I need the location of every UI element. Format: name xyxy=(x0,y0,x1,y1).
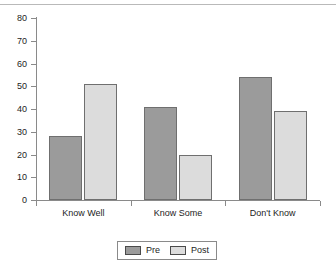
legend-entry-post: Post xyxy=(170,246,209,255)
x-axis-category-label: Don't Know xyxy=(225,208,320,219)
y-axis-tick-label: 30 xyxy=(0,128,27,137)
x-axis-tick xyxy=(225,201,226,206)
x-axis-tick xyxy=(320,201,321,206)
y-axis-tick xyxy=(31,155,36,156)
y-axis-tick-label: 70 xyxy=(0,37,27,46)
y-axis-tick-label: 20 xyxy=(0,151,27,160)
bar-pre-1 xyxy=(144,107,177,200)
bar-chart-figure: 01020304050607080Know WellKnow SomeDon't… xyxy=(0,0,336,271)
bar-post-0 xyxy=(84,84,117,200)
y-axis-tick-label: 10 xyxy=(0,173,27,182)
y-axis-tick xyxy=(31,177,36,178)
plot-area: 01020304050607080Know WellKnow SomeDon't… xyxy=(0,0,336,271)
y-axis-tick xyxy=(31,18,36,19)
legend-label-pre: Pre xyxy=(146,246,160,255)
x-axis-tick xyxy=(36,201,37,206)
y-axis-tick-label: 0 xyxy=(0,196,27,205)
legend-swatch-post xyxy=(170,246,186,255)
bar-post-1 xyxy=(179,155,212,201)
bar-post-2 xyxy=(274,111,307,200)
bar-pre-2 xyxy=(239,77,272,200)
legend-entry-pre: Pre xyxy=(125,246,160,255)
y-axis-tick-label: 60 xyxy=(0,60,27,69)
chart-legend: Pre Post xyxy=(117,241,217,260)
y-axis-tick-label: 50 xyxy=(0,82,27,91)
x-axis-category-label: Know Some xyxy=(131,208,226,219)
y-axis-tick xyxy=(31,132,36,133)
x-axis-tick xyxy=(131,201,132,206)
bar-pre-0 xyxy=(49,136,82,200)
y-axis-tick xyxy=(31,64,36,65)
y-axis-tick xyxy=(31,109,36,110)
y-axis-tick-label: 40 xyxy=(0,105,27,114)
legend-label-post: Post xyxy=(191,246,209,255)
x-axis-line xyxy=(36,200,320,201)
y-axis-line xyxy=(36,17,37,201)
y-axis-tick xyxy=(31,86,36,87)
legend-swatch-pre xyxy=(125,246,141,255)
x-axis-category-label: Know Well xyxy=(36,208,131,219)
y-axis-tick-label: 80 xyxy=(0,14,27,23)
y-axis-tick xyxy=(31,41,36,42)
